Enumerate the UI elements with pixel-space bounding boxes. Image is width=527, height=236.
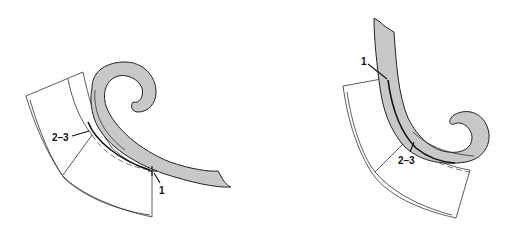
left-points-2-3-label: 2–3 <box>52 132 69 143</box>
left-french-curve <box>91 62 231 187</box>
left-points-2-3-leader <box>72 131 89 136</box>
left-figure: 1 2–3 <box>26 62 231 217</box>
left-construction-line <box>68 79 92 135</box>
right-points-2-3-label: 2–3 <box>398 155 415 166</box>
left-point-1-leader <box>154 173 160 183</box>
left-point-1-label: 1 <box>159 185 165 196</box>
right-figure: 1 2–3 <box>343 18 489 218</box>
french-curve-diagram: 1 2–3 1 2–3 <box>0 0 527 236</box>
right-point-1-label: 1 <box>361 56 367 67</box>
right-french-curve <box>374 18 489 163</box>
